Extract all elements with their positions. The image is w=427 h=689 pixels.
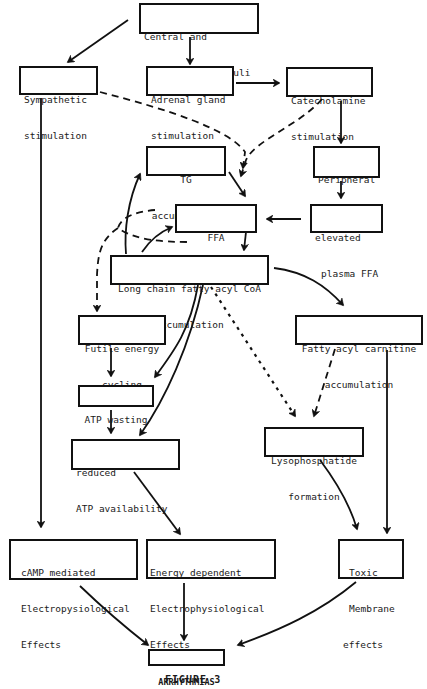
node-energy-dependent-effects: Energy dependent Electrophysiological Ef… (146, 539, 276, 579)
node-adrenal-gland: Adrenal gland stimulation (146, 66, 234, 96)
edge-tg-ffa (229, 172, 245, 196)
node-atp-wasting: ATP wasting (78, 385, 154, 407)
figure-caption: FIGURE 3 (165, 674, 221, 685)
node-central-stimuli: Central and Neurogenic Stimuli (139, 3, 259, 34)
node-toxic-membrane-effects: Toxic Membrane effects (338, 539, 404, 579)
node-sympathetic-stimulation: Sympathetic stimulation (19, 66, 98, 95)
node-long-chain-acyl-coa: Long chain fatty acyl CoA accumulation (110, 255, 269, 285)
node-futile-energy-cycling: Futile energy cycling (78, 315, 166, 345)
edge-longchain-tg (126, 174, 140, 254)
node-tg-accumulation: TG accumulation (146, 146, 226, 176)
node-fatty-acyl-carnitine: Fatty acyl carnitine accumulation (295, 315, 423, 345)
node-lysophosphatide-formation: Lysophosphatide formation (264, 427, 364, 457)
node-camp-effects: cAMP mediated Electropysiological Effect… (9, 539, 138, 580)
edge-central-sympathetic (68, 20, 128, 62)
node-elevated-plasma-ffa: elevated plasma FFA (310, 204, 383, 233)
node-ffa-accumulation: FFA accumulation (175, 204, 257, 233)
node-peripheral-lipolysis: Peripheral lipolysis (313, 146, 380, 178)
node-reduced-atp-availability: reduced ATP availability (71, 439, 180, 470)
node-catecholamine: Catecholamine stimulation (286, 67, 373, 97)
node-arrhythmias: ARRHYTHMIAS (148, 649, 225, 666)
